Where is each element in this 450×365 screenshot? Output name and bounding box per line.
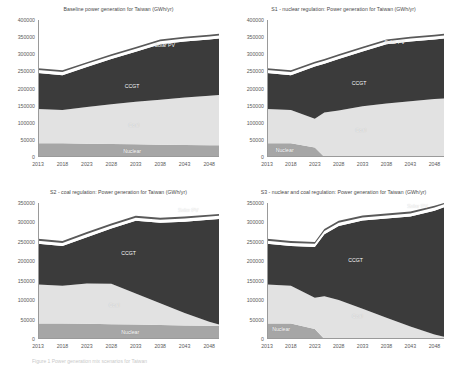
- y-axis-s2: [38, 203, 39, 339]
- plot-canvas-s2: CCGT Coal Nuclear Solar PV: [38, 203, 219, 339]
- plot-canvas-s3: CCGT Coal Nuclear Solar PV: [267, 203, 444, 339]
- stacked-area-baseline: [38, 20, 219, 157]
- plot-canvas-s1: CCGT Coal Nuclear Solar PV: [267, 20, 444, 157]
- plot-canvas-baseline: CCGT Coal Nuclear Solar PV: [38, 20, 219, 157]
- figure-grid: Baseline power generation for Taiwan (GW…: [0, 0, 450, 365]
- figure-caption: Figure 1 Power generation mix scenarios …: [32, 359, 442, 365]
- chart-panel-s2: S2 - coal regulation: Power generation f…: [0, 183, 225, 365]
- x-axis-s2: [38, 338, 219, 339]
- chart-title-s1: S1 - nuclear regulation: Power generatio…: [225, 7, 450, 13]
- stacked-area-s3: [267, 203, 444, 339]
- stacked-area-s1: [267, 20, 444, 157]
- x-axis-s3: [267, 338, 444, 339]
- x-axis-baseline: [38, 156, 219, 157]
- y-axis-baseline: [38, 20, 39, 157]
- chart-panel-s1: S1 - nuclear regulation: Power generatio…: [225, 0, 450, 183]
- chart-panel-s3: S3 - nuclear and coal regulation: Power …: [225, 183, 450, 365]
- chart-title-s2: S2 - coal regulation: Power generation f…: [0, 190, 225, 196]
- plot-area-s3: CCGT Coal Nuclear Solar PV 0 50000 10000…: [267, 203, 444, 339]
- area-nuclear: [38, 323, 219, 339]
- plot-area-baseline: CCGT Coal Nuclear Solar PV 0 50000 10000…: [38, 20, 219, 157]
- stacked-area-s2: [38, 203, 219, 339]
- chart-title-baseline: Baseline power generation for Taiwan (GW…: [0, 7, 225, 13]
- x-axis-s1: [267, 156, 444, 157]
- y-axis-s1: [267, 20, 268, 157]
- area-nuclear: [38, 143, 219, 157]
- chart-panel-baseline: Baseline power generation for Taiwan (GW…: [0, 0, 225, 183]
- plot-area-s2: CCGT Coal Nuclear Solar PV 0 50000 10000…: [38, 203, 219, 339]
- y-axis-s3: [267, 203, 268, 339]
- plot-area-s1: CCGT Coal Nuclear Solar PV 0 50000 10000…: [267, 20, 444, 157]
- chart-title-s3: S3 - nuclear and coal regulation: Power …: [225, 190, 450, 196]
